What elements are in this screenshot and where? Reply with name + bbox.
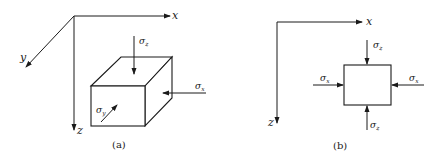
x-axis-label-b: x: [366, 15, 373, 28]
y-axis-label-a: y: [19, 51, 27, 64]
stress-sigma-z-bottom-b: σz: [367, 106, 380, 131]
stress-sigma-x-left-b: σx: [313, 73, 343, 85]
sigma-x-right-label-b: σx: [409, 73, 419, 84]
stress-state-diagram: x y z σz σx σy (a): [0, 0, 446, 161]
z-axis-label-b: z: [267, 116, 274, 129]
panel-a: x y z σz σx σy (a): [19, 9, 206, 150]
sigma-z-label-a: σz: [139, 36, 149, 47]
sigma-x-label-a: σx: [195, 81, 205, 92]
stress-sigma-x-right-b: σx: [392, 73, 424, 85]
x-axis-label-a: x: [172, 9, 179, 22]
square-element: [344, 65, 391, 105]
sigma-z-bottom-label-b: σz: [370, 120, 380, 131]
z-axis-label-a: z: [76, 124, 83, 137]
stress-sigma-z-top-b: σz: [367, 40, 383, 64]
caption-b: (b): [333, 140, 347, 151]
panel-b: x z σz σz σx σx (b): [267, 15, 424, 151]
caption-a: (a): [112, 139, 126, 150]
y-axis-a: [26, 16, 74, 67]
sigma-z-top-label-b: σz: [373, 40, 383, 51]
sigma-x-left-label-b: σx: [320, 73, 330, 84]
